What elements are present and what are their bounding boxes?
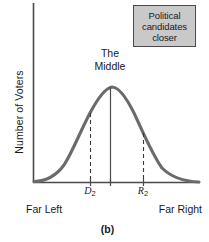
figure-panel-b: Number of Voters The Middle D2 R2 Far Le… [0,0,209,242]
middle-label-line-1: The [70,47,150,60]
callout-line-3: closer [152,32,177,43]
r2-axis-label: R2 [131,185,155,198]
middle-label: The Middle [70,47,150,72]
callout-line-2: candidates [142,21,187,32]
callout-box-political-candidates-closer: Political candidates closer [133,5,196,47]
r2-label-subscript: 2 [144,189,148,198]
d2-label-subscript: 2 [92,189,96,198]
d2-label-letter: D [84,185,91,196]
callout-line-1: Political [149,10,181,21]
voter-distribution-curve [34,87,199,182]
middle-label-line-2: Middle [70,60,150,73]
panel-caption: (b) [85,223,130,235]
x-axis-label-far-left: Far Left [26,203,62,215]
x-axis-label-far-right: Far Right [146,203,202,215]
d2-axis-label: D2 [78,185,102,198]
y-axis-label: Number of Voters [13,57,25,167]
